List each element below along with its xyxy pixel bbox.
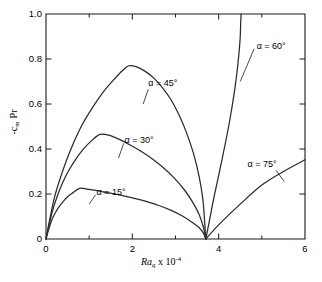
curve-annotations: α = 45°α = 60°α = 30°α = 15°α = 75° — [0, 0, 322, 282]
y-axis-title-prefix: - — [8, 131, 19, 134]
curve-annotation-label: α = 30° — [125, 135, 154, 145]
x-axis-title: Raq x 10-4 — [0, 255, 322, 268]
y-axis-title-subscript: m — [13, 121, 20, 126]
curve-annotation-label: α = 15° — [97, 187, 126, 197]
y-axis-title-pr: Pr — [8, 110, 19, 119]
y-axis-title-c: c — [8, 127, 19, 131]
curve-annotation-label: α = 45° — [148, 78, 177, 88]
x-axis-title-exponent: -4 — [175, 255, 181, 262]
x-axis-title-main: Ra — [141, 256, 152, 267]
y-axis-title: -cmPr — [3, 72, 21, 172]
curve-annotation-label: α = 60° — [257, 41, 286, 51]
x-axis-title-multiplier: x 10 — [155, 256, 175, 267]
curve-annotation-label: α = 75° — [248, 159, 277, 169]
chart-figure: 00.20.40.60.81.0 0246 α = 45°α = 60°α = … — [0, 0, 322, 282]
